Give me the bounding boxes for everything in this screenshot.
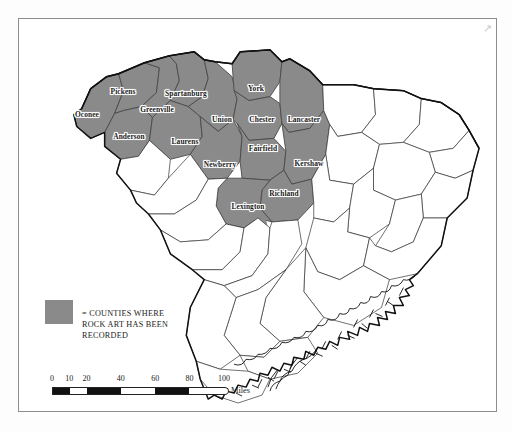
scale-segment-5 [189, 388, 223, 394]
scale-track [52, 387, 224, 395]
scale-end-cap [220, 387, 229, 395]
legend-swatch [45, 300, 73, 324]
south-carolina-map [19, 19, 496, 411]
scale-segment-1 [70, 388, 87, 394]
scale-tick-10: 10 [65, 374, 73, 383]
scale-tick-0: 0 [50, 374, 54, 383]
scale-segment-3 [121, 388, 155, 394]
scale-bar: 01020406080100 Miles [34, 374, 244, 408]
scale-tick-40: 40 [117, 374, 125, 383]
scale-tick-100: 100 [218, 374, 230, 383]
scale-tick-60: 60 [151, 374, 159, 383]
map-figure: ↗ [18, 18, 497, 412]
scale-tick-labels: 01020406080100 [34, 374, 244, 386]
scale-unit-label: Miles [231, 386, 250, 395]
county-york [232, 50, 282, 101]
legend: = COUNTIES WHERE ROCK ART HAS BEEN RECOR… [45, 300, 168, 342]
scale-tick-20: 20 [82, 374, 90, 383]
scale-tick-80: 80 [186, 374, 194, 383]
scale-segment-2 [87, 388, 121, 394]
legend-text: = COUNTIES WHERE ROCK ART HAS BEEN RECOR… [82, 308, 168, 342]
scale-segment-0 [53, 388, 70, 394]
scale-segment-4 [155, 388, 189, 394]
